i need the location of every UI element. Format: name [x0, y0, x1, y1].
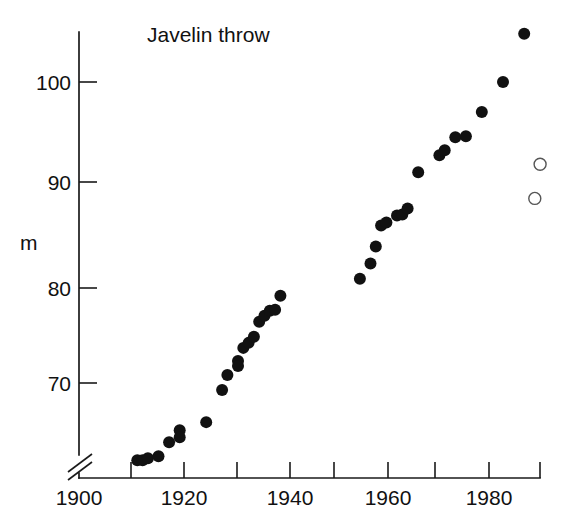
data-point: [529, 192, 541, 204]
data-point: [269, 304, 281, 316]
data-point: [365, 258, 377, 270]
x-tick-label-1900: 1900: [56, 486, 103, 509]
data-point: [476, 106, 488, 118]
chart-title: Javelin throw: [147, 23, 270, 46]
x-tick-label-1920: 1920: [161, 486, 208, 509]
data-point: [274, 290, 286, 302]
data-point: [402, 202, 414, 214]
data-point: [449, 131, 461, 143]
data-point: [460, 130, 472, 142]
data-point: [380, 216, 392, 228]
data-point: [221, 369, 233, 381]
data-point: [412, 166, 424, 178]
data-point: [163, 436, 175, 448]
data-point: [534, 158, 546, 170]
y-tick-label-100: 100: [36, 71, 71, 94]
data-point: [518, 28, 530, 40]
data-point: [200, 416, 212, 428]
javelin-throw-scatter-plot: Javelin throw m 100 90 80 70: [0, 0, 563, 526]
data-point: [216, 384, 228, 396]
x-tick-label-1980: 1980: [466, 486, 513, 509]
data-point: [370, 241, 382, 253]
data-point: [232, 360, 244, 372]
y-tick-label-80: 80: [48, 277, 71, 300]
plot-background: [0, 0, 563, 526]
x-tick-label-1940: 1940: [267, 486, 314, 509]
chart-figure: Javelin throw m 100 90 80 70: [0, 0, 563, 526]
data-point: [248, 331, 260, 343]
data-point: [497, 76, 509, 88]
x-tick-label-1960: 1960: [365, 486, 412, 509]
data-point: [174, 431, 186, 443]
data-point: [354, 273, 366, 285]
y-tick-label-90: 90: [48, 171, 71, 194]
data-point: [153, 450, 165, 462]
y-tick-label-70: 70: [48, 372, 71, 395]
y-axis-label: m: [20, 231, 38, 254]
data-point: [439, 144, 451, 156]
data-point: [142, 452, 154, 464]
